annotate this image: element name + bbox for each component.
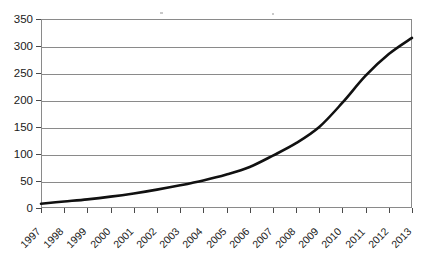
gridline — [42, 74, 411, 75]
line-chart-figure: 050100150200250300350 199719981999200020… — [0, 0, 425, 267]
x-tick-mark — [227, 208, 228, 213]
x-tick-mark — [319, 208, 320, 213]
x-tick-mark — [366, 208, 367, 213]
x-tick-label: 1999 — [65, 226, 89, 250]
x-tick-label: 2002 — [134, 226, 158, 250]
x-tick-mark — [203, 208, 204, 213]
x-tick-mark — [157, 208, 158, 213]
scan-artifact — [272, 13, 274, 15]
y-tick-label: 350 — [0, 14, 33, 25]
x-tick-label: 2006 — [227, 226, 251, 250]
x-tick-label: 2009 — [297, 226, 321, 250]
x-tick-mark — [111, 208, 112, 213]
x-tick-mark — [250, 208, 251, 213]
x-tick-label: 2005 — [204, 226, 228, 250]
y-tick-label: 100 — [0, 149, 33, 160]
x-tick-label: 2008 — [273, 226, 297, 250]
y-tick-label: 200 — [0, 95, 33, 106]
x-tick-mark — [64, 208, 65, 213]
x-tick-mark — [134, 208, 135, 213]
y-tick-label: 150 — [0, 122, 33, 133]
scan-artifact — [160, 12, 163, 14]
y-tick-label: 50 — [0, 176, 33, 187]
x-tick-label: 2011 — [343, 226, 367, 250]
x-axis: 1997199819992000200120022003200420052006… — [0, 214, 425, 258]
x-tick-label: 2010 — [320, 226, 344, 250]
x-tick-label: 2001 — [111, 226, 135, 250]
x-tick-label: 2013 — [389, 226, 413, 250]
x-tick-label: 2012 — [366, 226, 390, 250]
x-tick-label: 2004 — [181, 226, 205, 250]
y-tick-label: 300 — [0, 41, 33, 52]
x-tick-mark — [296, 208, 297, 213]
gridline — [42, 182, 411, 183]
x-tick-mark — [87, 208, 88, 213]
x-tick-mark — [412, 208, 413, 213]
x-tick-label: 1998 — [42, 226, 66, 250]
gridline — [42, 47, 411, 48]
x-tick-label: 1997 — [18, 226, 42, 250]
gridline — [42, 155, 411, 156]
x-tick-mark — [273, 208, 274, 213]
x-tick-mark — [180, 208, 181, 213]
plot-area — [41, 19, 412, 208]
x-tick-label: 2007 — [250, 226, 274, 250]
x-tick-label: 2000 — [88, 226, 112, 250]
x-tick-mark — [342, 208, 343, 213]
x-tick-mark — [389, 208, 390, 213]
x-tick-mark — [41, 208, 42, 213]
gridline — [42, 101, 411, 102]
y-tick-label: 250 — [0, 68, 33, 79]
x-tick-label: 2003 — [157, 226, 181, 250]
gridline — [42, 128, 411, 129]
